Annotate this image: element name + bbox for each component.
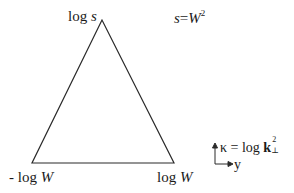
triangle-diagram [0,0,294,193]
triangle [32,20,174,163]
relation-label: s=W2 [174,9,205,26]
bottom-left-label: - log W [9,170,53,185]
apex-label: log s [68,9,97,24]
y-axis-label: y [234,158,241,172]
bottom-right-label: log W [157,170,192,185]
kappa-axis-label: κ = log k2⊥ [220,141,277,155]
